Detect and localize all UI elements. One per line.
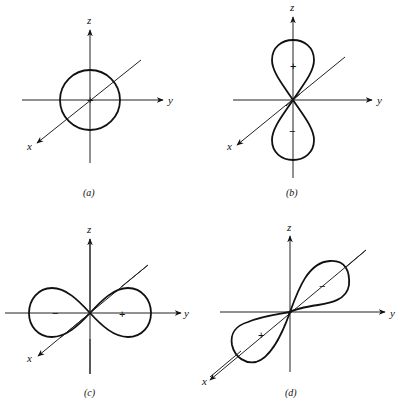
y-label: y	[389, 307, 395, 319]
sign-plus: +	[258, 329, 264, 341]
z-label: z	[286, 221, 292, 233]
caption-d: (d)	[285, 387, 297, 399]
sign-minus: −	[289, 125, 295, 137]
y-label: y	[183, 307, 189, 319]
z-label: z	[86, 14, 92, 26]
x-axis-front	[60, 313, 90, 338]
caption-a: (a)	[83, 187, 95, 199]
sign-plus: +	[87, 94, 93, 106]
x-label: x	[26, 352, 32, 364]
x-axis-back	[345, 250, 366, 268]
x-axis-front	[210, 351, 241, 377]
caption-c: (c)	[84, 387, 96, 399]
x-axis-back	[121, 265, 148, 287]
panel-d: z y x − + (d)	[201, 221, 395, 399]
x-label: x	[226, 140, 232, 152]
sign-minus: −	[52, 307, 58, 319]
panel-b: z y x + − (b)	[226, 1, 382, 199]
orbital-figure: z y x + (a) z y x + − (b) z y x − + (c)	[0, 0, 404, 403]
z-label: z	[86, 223, 92, 235]
x-label: x	[201, 375, 207, 387]
panel-a: z y x + (a)	[22, 14, 173, 199]
y-label: y	[167, 94, 173, 106]
sign-plus: +	[119, 308, 125, 320]
caption-b: (b)	[286, 187, 298, 199]
x-label: x	[26, 140, 32, 152]
z-label: z	[289, 1, 295, 13]
sign-minus: −	[319, 280, 325, 292]
y-label: y	[376, 94, 382, 106]
panel-c: z y x − + (c)	[5, 223, 189, 399]
sign-plus: +	[290, 60, 296, 72]
